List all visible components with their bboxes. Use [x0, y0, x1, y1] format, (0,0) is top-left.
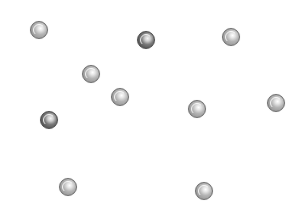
game-field[interactable] [0, 0, 301, 212]
ball-light[interactable] [111, 88, 129, 106]
ball-light[interactable] [222, 28, 240, 46]
ball-light[interactable] [188, 100, 206, 118]
ball-light[interactable] [195, 182, 213, 200]
ball-light[interactable] [30, 21, 48, 39]
ball-light[interactable] [82, 65, 100, 83]
ball-dark[interactable] [40, 111, 58, 129]
ball-light[interactable] [59, 178, 77, 196]
ball-light[interactable] [267, 94, 285, 112]
ball-dark[interactable] [137, 31, 155, 49]
